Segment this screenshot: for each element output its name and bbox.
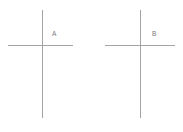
cross-diagram-svg: A B: [0, 0, 183, 132]
diagram-background: [0, 0, 183, 132]
cross-diagram-canvas: A B: [0, 0, 183, 132]
cross-a-label: A: [52, 30, 57, 37]
cross-b-label: B: [152, 30, 156, 37]
